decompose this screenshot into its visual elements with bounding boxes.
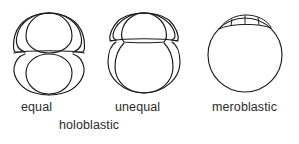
unequal-macromere-left-lobe — [108, 42, 144, 93]
unequal-macromere-front-cell — [115, 43, 173, 93]
cleavage-diagrams-canvas — [0, 0, 299, 144]
diagram-meroblastic — [208, 15, 282, 92]
meroblastic-cap-divider-3 — [258, 18, 259, 25]
unequal-micromere-right-outer — [144, 13, 175, 40]
equal-lower-front-cell — [26, 54, 72, 94]
cleavage-patterns-figure: equal unequal meroblastic holoblastic — [0, 0, 299, 144]
unequal-cleavage-furrow — [110, 39, 178, 41]
meroblastic-cap-floor — [219, 24, 271, 29]
unequal-micromere-left-outer — [113, 13, 144, 40]
diagram-equal-holoblastic — [14, 13, 85, 95]
diagram-unequal-holoblastic — [108, 13, 180, 93]
unequal-macromere-right-lobe — [144, 42, 180, 93]
equal-upper-left-lobe — [14, 13, 50, 52]
equal-upper-right-lobe — [49, 13, 85, 52]
equal-upper-front-cell — [26, 13, 72, 53]
